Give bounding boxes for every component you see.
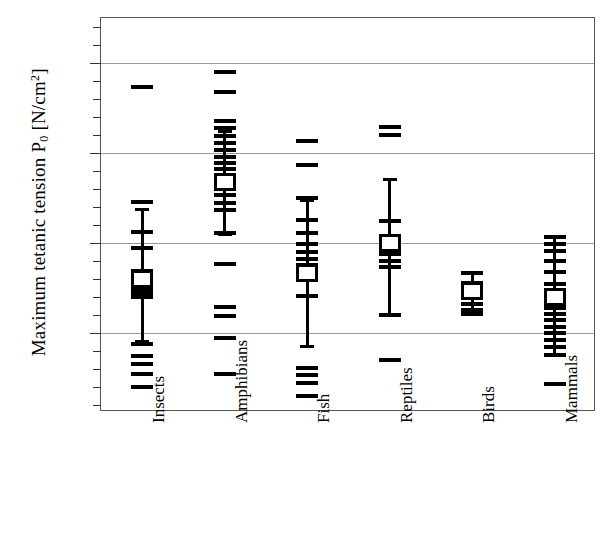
data-point bbox=[544, 282, 566, 286]
data-point bbox=[544, 249, 566, 253]
data-point bbox=[296, 242, 318, 246]
data-point bbox=[296, 373, 318, 377]
data-point bbox=[214, 90, 236, 94]
data-point bbox=[214, 201, 236, 205]
y-axis-units-superscript: 2 bbox=[28, 75, 42, 81]
data-point bbox=[131, 200, 153, 204]
plot-area bbox=[100, 17, 595, 411]
data-point bbox=[296, 139, 318, 143]
data-point bbox=[131, 85, 153, 89]
y-minor-tick-26 bbox=[93, 189, 101, 190]
data-point bbox=[214, 231, 236, 235]
data-point bbox=[296, 218, 318, 222]
data-point bbox=[214, 193, 236, 197]
data-point bbox=[544, 235, 566, 239]
data-point bbox=[544, 242, 566, 246]
x-axis-label-amphibians: Amphibians bbox=[232, 340, 252, 423]
mean-marker-fish bbox=[296, 264, 318, 282]
data-point bbox=[214, 141, 236, 145]
y-minor-tick-4 bbox=[93, 387, 101, 388]
y-tick-40 bbox=[90, 63, 101, 64]
data-point bbox=[214, 262, 236, 266]
data-point bbox=[461, 308, 483, 312]
y-axis-title-text: Maximum tetanic tension P bbox=[28, 142, 49, 357]
y-minor-tick-24 bbox=[93, 207, 101, 208]
data-point bbox=[214, 208, 236, 212]
data-point bbox=[379, 252, 401, 256]
y-minor-tick-34 bbox=[93, 117, 101, 118]
y-tick-20 bbox=[90, 243, 101, 244]
data-point bbox=[544, 270, 566, 274]
data-point bbox=[214, 148, 236, 152]
data-point bbox=[379, 313, 401, 317]
data-point bbox=[379, 259, 401, 263]
y-tick-10 bbox=[90, 333, 101, 334]
y-minor-tick-14 bbox=[93, 297, 101, 298]
data-point bbox=[296, 163, 318, 167]
data-point bbox=[461, 312, 483, 316]
error-cap-upper bbox=[383, 178, 397, 181]
data-point bbox=[214, 314, 236, 318]
data-point bbox=[214, 167, 236, 171]
gridline-30 bbox=[101, 153, 594, 154]
data-point bbox=[544, 331, 566, 335]
mean-marker-reptiles bbox=[379, 234, 401, 252]
data-point bbox=[131, 246, 153, 250]
y-minor-tick-28 bbox=[93, 171, 101, 172]
y-minor-tick-8 bbox=[93, 351, 101, 352]
data-point bbox=[214, 161, 236, 165]
error-cap-upper bbox=[218, 130, 232, 133]
y-tick-30 bbox=[90, 153, 101, 154]
data-point bbox=[544, 312, 566, 316]
data-point bbox=[131, 354, 153, 358]
y-minor-tick-36 bbox=[93, 99, 101, 100]
data-point bbox=[296, 250, 318, 254]
data-point bbox=[379, 265, 401, 269]
data-point bbox=[131, 342, 153, 346]
data-point bbox=[544, 306, 566, 310]
data-point bbox=[544, 259, 566, 263]
y-minor-tick-12 bbox=[93, 315, 101, 316]
y-axis-title-subscript: 0 bbox=[37, 136, 51, 142]
data-point bbox=[296, 257, 318, 261]
mean-marker-birds bbox=[461, 282, 483, 300]
data-point bbox=[296, 381, 318, 385]
y-minor-tick-22 bbox=[93, 225, 101, 226]
y-minor-tick-16 bbox=[93, 279, 101, 280]
data-point bbox=[544, 338, 566, 342]
mean-marker-amphibians bbox=[214, 173, 236, 191]
data-point bbox=[379, 125, 401, 129]
error-cap-upper bbox=[135, 208, 149, 211]
y-minor-tick-32 bbox=[93, 135, 101, 136]
y-minor-tick-2 bbox=[93, 405, 101, 406]
x-axis-label-reptiles: Reptiles bbox=[397, 367, 417, 423]
gridline-20 bbox=[101, 243, 594, 244]
data-point bbox=[214, 134, 236, 138]
data-point bbox=[131, 230, 153, 234]
x-axis-label-birds: Birds bbox=[479, 386, 499, 423]
y-axis-units-open: [N/cm bbox=[28, 81, 49, 136]
data-point bbox=[544, 345, 566, 349]
data-point bbox=[379, 358, 401, 362]
data-point bbox=[214, 119, 236, 123]
x-axis-label-mammals: Mammals bbox=[562, 355, 582, 423]
y-minor-tick-6 bbox=[93, 369, 101, 370]
data-point bbox=[544, 318, 566, 322]
data-point bbox=[544, 325, 566, 329]
data-point bbox=[131, 362, 153, 366]
x-axis-label-insects: Insects bbox=[149, 376, 169, 423]
y-minor-tick-18 bbox=[93, 261, 101, 262]
data-point bbox=[214, 126, 236, 130]
data-point bbox=[296, 231, 318, 235]
data-point bbox=[379, 219, 401, 223]
figure: Maximum tetanic tension P0 [N/cm2] 10203… bbox=[0, 0, 606, 537]
y-minor-tick-44 bbox=[93, 27, 101, 28]
y-minor-tick-42 bbox=[93, 45, 101, 46]
data-point bbox=[296, 294, 318, 298]
y-axis-title: Maximum tetanic tension P0 [N/cm2] bbox=[28, 2, 53, 422]
error-cap-lower bbox=[300, 345, 314, 348]
data-point bbox=[296, 366, 318, 370]
y-minor-tick-38 bbox=[93, 81, 101, 82]
gridline-40 bbox=[101, 63, 594, 64]
data-point bbox=[296, 196, 318, 200]
